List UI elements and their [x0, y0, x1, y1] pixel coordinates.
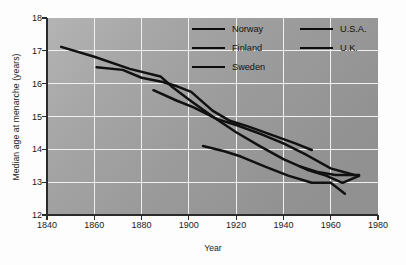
legend-label-sweden: Sweden — [232, 62, 265, 72]
chart-legend: Norway Finland Sweden U.S.A. U.K. — [0, 0, 406, 80]
legend-swatch-uk — [300, 47, 333, 50]
y-tick-16: 16 — [0, 79, 42, 89]
legend-swatch-sweden — [192, 66, 225, 69]
legend-item-norway[interactable]: Norway — [192, 24, 263, 34]
y-tick-14: 14 — [0, 144, 42, 154]
legend-item-uk[interactable]: U.K. — [300, 43, 358, 53]
x-axis-title: Year — [47, 243, 379, 253]
y-tick-13: 13 — [0, 177, 42, 187]
y-tick-15: 15 — [0, 112, 42, 122]
legend-item-sweden[interactable]: Sweden — [192, 62, 265, 72]
legend-label-norway: Norway — [232, 24, 263, 34]
legend-item-usa[interactable]: U.S.A. — [300, 24, 367, 34]
x-tick-1980: 1980 — [348, 220, 406, 230]
legend-swatch-finland — [192, 47, 225, 50]
chart-page: 18 17 16 15 14 13 12 1840 1860 1880 1900… — [0, 0, 406, 265]
y-tick-12: 12 — [0, 210, 42, 220]
legend-label-usa: U.S.A. — [340, 24, 367, 34]
legend-label-finland: Finland — [232, 43, 262, 53]
legend-item-finland[interactable]: Finland — [192, 43, 262, 53]
legend-label-uk: U.K. — [340, 43, 358, 53]
legend-swatch-norway — [192, 28, 225, 31]
legend-swatch-usa — [300, 28, 333, 31]
